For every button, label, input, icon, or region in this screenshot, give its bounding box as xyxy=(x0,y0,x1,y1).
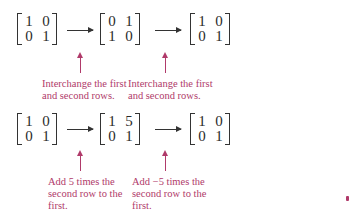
matrix-identity-end-2: 1 0 0 1 xyxy=(190,113,230,145)
matrix-cell: 1 xyxy=(213,29,225,44)
right-bracket xyxy=(52,13,57,45)
right-arrow-icon xyxy=(155,30,181,31)
up-arrow-icon xyxy=(165,56,166,73)
matrix-cell: 1 xyxy=(106,114,118,129)
matrix-cell: 1 xyxy=(123,129,135,144)
matrix-cell: 1 xyxy=(213,129,225,144)
right-bracket xyxy=(135,13,140,45)
annotation-add-minus-5: Add −5 times the second row to the first… xyxy=(132,176,206,212)
matrix-identity-start: 1 0 0 1 xyxy=(17,13,57,45)
matrix-cell: 0 xyxy=(106,129,118,144)
matrix-swapped: 0 1 1 0 xyxy=(100,13,140,45)
matrix-cell: 1 xyxy=(23,114,35,129)
left-bracket xyxy=(17,13,22,45)
matrix-cell: 1 xyxy=(40,129,52,144)
matrix-cell: 0 xyxy=(106,14,118,29)
left-bracket xyxy=(100,13,105,45)
right-bracket xyxy=(135,113,140,145)
matrix-cell: 1 xyxy=(106,29,118,44)
right-bracket xyxy=(225,113,230,145)
matrix-cell: 0 xyxy=(196,29,208,44)
right-arrow-icon xyxy=(155,129,181,130)
right-bracket xyxy=(225,13,230,45)
matrix-cell: 0 xyxy=(40,114,52,129)
matrix-cell: 0 xyxy=(23,29,35,44)
annotation-interchange-2: Interchange the first and second rows. xyxy=(128,78,213,102)
right-arrow-icon xyxy=(67,129,93,130)
up-arrow-icon xyxy=(80,56,81,73)
left-bracket xyxy=(190,113,195,145)
matrix-row-added: 1 5 0 1 xyxy=(100,113,140,145)
left-bracket xyxy=(100,113,105,145)
matrix-cell: 0 xyxy=(123,29,135,44)
matrix-cell: 1 xyxy=(196,14,208,29)
matrix-cell: 5 xyxy=(123,114,135,129)
annotation-interchange-1: Interchange the first and second rows. xyxy=(42,78,127,102)
matrix-cell: 1 xyxy=(196,114,208,129)
left-bracket xyxy=(190,13,195,45)
annotation-add-5: Add 5 times the second row to the first. xyxy=(48,176,122,212)
matrix-cell: 1 xyxy=(40,29,52,44)
up-arrow-icon xyxy=(165,154,166,171)
matrix-cell: 1 xyxy=(23,14,35,29)
up-arrow-icon xyxy=(80,154,81,171)
matrix-identity-start-2: 1 0 0 1 xyxy=(17,113,57,145)
matrix-identity-end: 1 0 0 1 xyxy=(190,13,230,45)
matrix-cell: 1 xyxy=(123,14,135,29)
matrix-cell: 0 xyxy=(196,129,208,144)
right-arrow-icon xyxy=(67,30,93,31)
left-bracket xyxy=(17,113,22,145)
matrix-cell: 0 xyxy=(40,14,52,29)
matrix-cell: 0 xyxy=(213,114,225,129)
right-bracket xyxy=(52,113,57,145)
matrix-cell: 0 xyxy=(23,129,35,144)
matrix-cell: 0 xyxy=(213,14,225,29)
